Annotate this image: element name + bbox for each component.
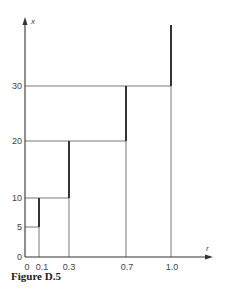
x-tick: 0.3 (63, 262, 76, 272)
axes (25, 22, 208, 257)
x-tick: 0.7 (121, 262, 134, 272)
y-tick: 20 (12, 136, 22, 146)
figure-caption: Figure D.5 (11, 270, 61, 282)
y-tick: 30 (12, 81, 22, 91)
y-tick: 0 (17, 252, 22, 262)
x-tick: 1.0 (166, 262, 179, 272)
x-axis-arrow-icon (205, 255, 213, 260)
y-tick: 5 (17, 222, 22, 232)
step-segments (39, 25, 171, 227)
figure-plot: x r 0 5 10 20 30 0 0.1 0.3 0.7 1.0 (0, 0, 225, 300)
x-axis-label: r (206, 244, 209, 253)
guide-lines (25, 86, 171, 257)
y-axis-label: x (30, 17, 36, 26)
y-axis-arrow-icon (23, 17, 28, 25)
y-tick: 10 (12, 193, 22, 203)
